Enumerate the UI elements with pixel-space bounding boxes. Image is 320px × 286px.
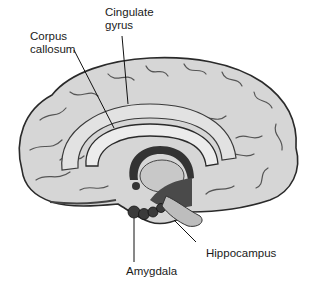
label-line: Cingulate	[105, 6, 154, 19]
label-cingulate-gyrus: Cingulate gyrus	[105, 6, 154, 32]
label-hippocampus: Hippocampus	[206, 247, 276, 260]
label-line: callosum	[30, 43, 75, 56]
label-line: Corpus	[30, 30, 75, 43]
mammillary-body	[132, 182, 140, 190]
label-amygdala: Amygdala	[126, 265, 177, 278]
label-corpus-callosum: Corpus callosum	[30, 30, 75, 56]
label-line: gyrus	[105, 19, 154, 32]
